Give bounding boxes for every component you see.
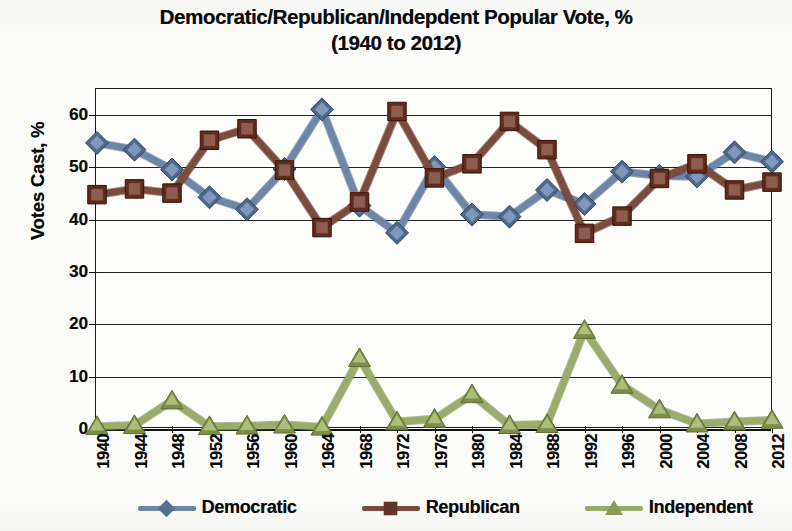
x-tick-label: 1944 — [131, 434, 150, 469]
series-republican — [88, 102, 781, 242]
data-point-highlight — [316, 222, 327, 233]
x-tick-label: 1976 — [431, 434, 450, 469]
x-tick-label: 2004 — [694, 434, 713, 469]
data-point-highlight — [616, 210, 627, 221]
x-tick-label: 1972 — [394, 434, 413, 469]
data-point-highlight — [691, 158, 702, 169]
y-tick-label: 10 — [69, 367, 88, 387]
data-point-highlight — [204, 135, 215, 146]
legend-label: Republican — [426, 497, 520, 518]
x-tick-label: 1992 — [581, 434, 600, 469]
y-tick-label: 30 — [69, 262, 88, 282]
legend-marker-diamond-icon — [157, 499, 174, 516]
data-point-highlight — [391, 106, 402, 117]
data-point-highlight — [729, 184, 740, 195]
data-point-highlight — [429, 172, 440, 183]
data-point-highlight — [654, 173, 665, 184]
series-independent — [86, 320, 783, 435]
data-point-highlight — [504, 116, 515, 127]
y-tick-label: 0 — [79, 419, 88, 439]
data-point-highlight — [91, 189, 102, 200]
x-tick-label: 1984 — [506, 434, 525, 469]
legend-marker-square-icon — [383, 501, 397, 515]
legend-swatch-square-icon — [362, 499, 420, 517]
chart-subtitle: (1940 to 2012) — [0, 30, 792, 56]
x-tick-label: 1988 — [544, 434, 563, 469]
x-tick-label: 2012 — [769, 434, 788, 469]
chart-legend: DemocraticRepublicanIndependent — [95, 497, 785, 518]
y-tick-label: 50 — [69, 157, 88, 177]
x-tick-label: 1964 — [319, 434, 338, 469]
series-layer — [96, 89, 773, 429]
data-point-highlight — [166, 187, 177, 198]
chart-container: Democratic/Republican/Indepdent Popular … — [0, 0, 792, 531]
x-tick-label: 1940 — [94, 434, 113, 469]
legend-item-independent[interactable]: Independent — [585, 497, 753, 518]
legend-label: Democratic — [202, 497, 297, 518]
data-point-highlight — [466, 158, 477, 169]
legend-item-republican[interactable]: Republican — [362, 497, 520, 518]
legend-swatch-diamond-icon — [138, 499, 196, 517]
data-point-highlight — [541, 144, 552, 155]
legend-marker-triangle-icon — [605, 500, 623, 515]
x-tick-label: 1968 — [356, 434, 375, 469]
x-tick-label: 2008 — [731, 434, 750, 469]
y-tick-label: 60 — [69, 105, 88, 125]
x-tick-label: 1996 — [619, 434, 638, 469]
x-tick-label: 1956 — [244, 434, 263, 469]
chart-title-block: Democratic/Republican/Indepdent Popular … — [0, 4, 792, 56]
data-point-highlight — [579, 228, 590, 239]
data-point-highlight — [279, 164, 290, 175]
chart-title: Democratic/Republican/Indepdent Popular … — [0, 4, 792, 30]
legend-label: Independent — [649, 497, 753, 518]
y-axis-title: Votes Cast, % — [27, 81, 49, 281]
x-tick-label: 1960 — [281, 434, 300, 469]
x-tick-label: 1952 — [206, 434, 225, 469]
data-point-highlight — [241, 123, 252, 134]
x-tick-label: 1980 — [469, 434, 488, 469]
y-tick-label: 20 — [69, 314, 88, 334]
plot-area: 0102030405060 — [95, 88, 772, 428]
x-tick-label: 1948 — [169, 434, 188, 469]
x-tick-label: 2000 — [656, 434, 675, 469]
legend-item-democratic[interactable]: Democratic — [138, 497, 297, 518]
legend-swatch-triangle-icon — [585, 499, 643, 517]
data-point-highlight — [766, 176, 777, 187]
y-tick-label: 40 — [69, 210, 88, 230]
data-point-highlight — [354, 196, 365, 207]
axis-baseline — [96, 429, 771, 431]
data-point-highlight — [129, 183, 140, 194]
